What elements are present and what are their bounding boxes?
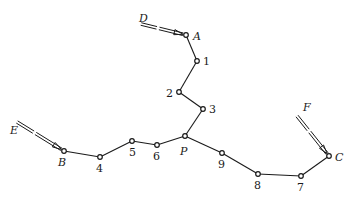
label-b: B [57,156,66,169]
label-3: 3 [209,103,216,116]
edge-9-8 [222,153,258,174]
node-3 [201,107,206,112]
node-c [327,154,332,159]
node-7 [299,174,304,179]
node-a [184,33,189,38]
label-d: D [138,12,148,25]
label-9: 9 [218,158,225,171]
label-1: 1 [203,55,210,68]
edge-6-5 [132,141,157,145]
edge-7-c [301,156,329,176]
edge-p-9 [185,136,222,153]
edge-p-6 [157,136,185,145]
node-2 [177,90,182,95]
node-5 [130,139,135,144]
node-6 [155,143,160,148]
label-p: P [179,145,188,158]
label-c: C [335,151,344,164]
label-6: 6 [153,150,160,163]
label-e: E [9,124,18,137]
label-f: F [302,101,311,114]
path-edges [64,35,329,176]
label-a: A [192,30,201,43]
edge-5-4 [100,141,132,157]
feeder-e [16,121,62,151]
node-9 [220,151,225,156]
node-b [62,149,67,154]
node-4 [98,155,103,160]
network-diagram: A123P654B987CDEF [0,0,353,204]
node-8 [256,172,261,177]
edge-3-p [185,109,203,136]
edge-1-2 [179,61,197,92]
label-5: 5 [129,146,136,159]
node-1 [195,59,200,64]
edge-4-b [64,151,100,157]
label-4: 4 [96,162,103,175]
edge-8-7 [258,174,301,176]
label-7: 7 [297,181,304,194]
path-nodes [62,33,332,179]
feeder-f [296,115,328,154]
label-8: 8 [254,179,261,192]
edge-2-3 [179,92,203,109]
node-p [183,134,188,139]
node-labels: A123P654B987CDEF [9,12,344,194]
label-2: 2 [166,87,173,100]
